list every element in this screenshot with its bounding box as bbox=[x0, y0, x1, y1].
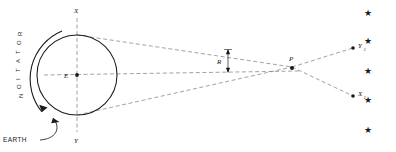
point-label-e: E bbox=[63, 72, 69, 80]
star-icon: ★ bbox=[364, 66, 372, 76]
point-label-y: Y bbox=[74, 137, 79, 145]
projection-dot-x1 bbox=[351, 94, 355, 98]
svg-text:X: X bbox=[357, 90, 363, 98]
star-field: ★ ★ ★ ★ ★ bbox=[364, 8, 372, 135]
svg-text:1: 1 bbox=[364, 47, 367, 52]
rotation-letter: A bbox=[15, 59, 21, 63]
rotation-label: R O T A T I O N bbox=[15, 31, 24, 98]
star-icon: ★ bbox=[364, 8, 372, 18]
star-icon: ★ bbox=[364, 36, 372, 46]
sight-line-y-to-p bbox=[77, 67, 292, 115]
earth-label: EARTH bbox=[3, 136, 27, 143]
star-icon: ★ bbox=[364, 125, 372, 135]
rotation-letter: O bbox=[16, 84, 22, 89]
object-p-dot bbox=[290, 66, 294, 70]
sight-lines bbox=[44, 18, 353, 132]
angle-label-r: R bbox=[216, 58, 222, 66]
parallax-diagram: R O T A T I O N EARTH X Y E P Y 1 bbox=[0, 0, 396, 152]
rotation-letter: T bbox=[15, 68, 21, 72]
svg-text:Y: Y bbox=[358, 42, 363, 50]
sight-line-p-to-y1 bbox=[292, 48, 353, 67]
star-icon: ★ bbox=[364, 95, 372, 105]
sight-line-p-to-x1 bbox=[292, 67, 353, 96]
point-label-x: X bbox=[73, 7, 79, 15]
rotation-letter: O bbox=[16, 40, 22, 45]
earth-center-dot bbox=[75, 73, 79, 77]
earth-callout: EARTH bbox=[3, 118, 59, 143]
rotation-letter: I bbox=[15, 78, 21, 80]
angle-measure-r: R bbox=[216, 49, 232, 73]
rotation-letter: T bbox=[15, 50, 21, 54]
rotation-letter: N bbox=[18, 94, 24, 98]
point-label-p: P bbox=[288, 55, 294, 63]
rotation-letter: R bbox=[17, 31, 23, 36]
projection-dot-y1 bbox=[351, 46, 355, 50]
axis-line-e-to-p bbox=[44, 71, 300, 75]
